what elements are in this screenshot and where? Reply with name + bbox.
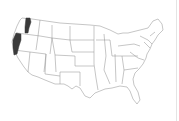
us-outline (12, 18, 163, 104)
us-map (0, 0, 179, 121)
